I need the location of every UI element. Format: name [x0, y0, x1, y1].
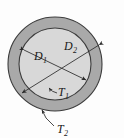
outer-thickness-leader-line [42, 110, 54, 126]
inner-circle [19, 28, 91, 100]
annulus-figure: D 1 D 2 T 1 T 2 [0, 0, 124, 138]
inner-diameter-label-base: D [33, 49, 43, 63]
inner-diameter-label-subscript: 1 [43, 56, 47, 65]
outer-thickness-label: T 2 [57, 122, 68, 138]
outer-diameter-label-subscript: 2 [73, 46, 77, 55]
inner-thickness-label-subscript: 1 [65, 92, 69, 101]
outer-diameter-label-base: D [63, 39, 73, 53]
annulus-diagram: D 1 D 2 T 1 T 2 [0, 0, 124, 138]
outer-thickness-label-subscript: 2 [64, 129, 68, 138]
